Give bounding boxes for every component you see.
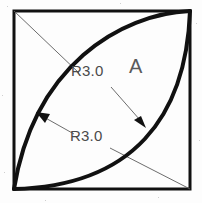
scan-speck — [199, 140, 200, 141]
upper-leader-diagonal — [14, 11, 79, 73]
scan-speck — [4, 172, 5, 173]
upper-left-arc — [14, 11, 190, 189]
technical-drawing-svg — [0, 0, 202, 203]
radius-label-bottom: R3.0 — [70, 127, 103, 144]
leader-line-right-arc — [111, 87, 140, 120]
lower-right-arc — [14, 11, 190, 189]
scan-speck — [2, 95, 3, 96]
scan-speck — [120, 3, 121, 4]
scan-speck — [158, 197, 159, 198]
lower-leader-diagonal — [110, 148, 190, 189]
region-label-a: A — [129, 55, 143, 78]
scan-speck — [7, 6, 8, 7]
radius-label-top: R3.0 — [71, 62, 104, 79]
outer-square — [14, 11, 190, 189]
scan-speck — [45, 200, 46, 201]
drawing-canvas: R3.0 R3.0 A — [0, 0, 202, 203]
scan-speck — [196, 23, 197, 24]
arrowhead-right-arc — [134, 116, 146, 128]
